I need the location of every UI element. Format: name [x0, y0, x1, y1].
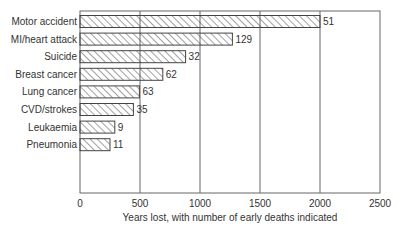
bar: [80, 33, 232, 45]
bar-row: MI/heart attack129: [11, 33, 253, 45]
bar-annotation: 63: [142, 86, 154, 97]
bar-row: Pneumonia11: [26, 139, 123, 151]
bar-row: Lung cancer63: [22, 86, 154, 98]
bar: [80, 139, 110, 151]
bar-annotation: 32: [189, 51, 201, 62]
x-tick-label: 1500: [249, 198, 272, 209]
bar: [80, 86, 139, 98]
bar: [80, 51, 186, 63]
bar-row: Breast cancer62: [15, 68, 177, 80]
bar-annotation: 11: [113, 139, 124, 150]
x-tick-label: 2000: [309, 198, 332, 209]
bars: Motor accident51MI/heart attack129Suicid…: [11, 16, 335, 151]
bar: [80, 68, 163, 80]
bar-annotation: 62: [166, 69, 178, 80]
bar: [80, 16, 320, 28]
category-label: Leukaemia: [28, 122, 77, 133]
bar-row: Suicide32: [44, 51, 200, 63]
bar-row: CVD/strokes35: [21, 104, 148, 116]
bar-row: Leukaemia9: [28, 121, 124, 133]
category-label: Lung cancer: [22, 86, 78, 97]
bar-annotation: 129: [235, 34, 252, 45]
category-label: Pneumonia: [26, 139, 77, 150]
bar-annotation: 9: [118, 122, 124, 133]
bar-annotation: 35: [136, 104, 148, 115]
category-label: CVD/strokes: [21, 104, 77, 115]
category-label: Motor accident: [11, 16, 77, 27]
x-tick-label: 1000: [189, 198, 212, 209]
bar: [80, 121, 115, 133]
category-label: MI/heart attack: [11, 34, 78, 45]
category-label: Breast cancer: [15, 69, 77, 80]
bar-annotation: 51: [323, 16, 335, 27]
x-axis-label: Years lost, with number of early deaths …: [123, 212, 338, 223]
x-tick-label: 0: [77, 198, 83, 209]
x-tick-label: 500: [132, 198, 149, 209]
x-axis-ticks: 05001000150020002500: [77, 198, 391, 209]
bar-chart: Motor accident51MI/heart attack129Suicid…: [0, 0, 398, 230]
bar-row: Motor accident51: [11, 16, 334, 28]
category-label: Suicide: [44, 51, 77, 62]
x-tick-label: 2500: [369, 198, 392, 209]
bar: [80, 104, 133, 116]
